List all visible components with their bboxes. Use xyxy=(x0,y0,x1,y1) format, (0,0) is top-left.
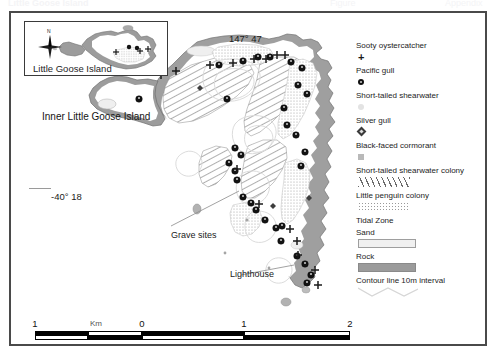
legend-label: Contour line 10m interval xyxy=(356,275,474,286)
cropped-caption-strip: Little Goose Island Figure Appendix xyxy=(0,0,497,9)
scale-seg-bot-2 xyxy=(88,335,142,340)
legend-label: Pacific gull xyxy=(356,65,474,76)
compass-north-label: N xyxy=(47,28,51,34)
legend-label: Sand xyxy=(356,227,474,238)
filled-circle-marker-icon xyxy=(358,79,364,85)
legend-label: Rock xyxy=(356,251,474,262)
legend-item-sand: Sand xyxy=(356,227,474,250)
scale-tick-0: 1 xyxy=(32,318,37,329)
legend-label: Black-faced cormorant xyxy=(356,140,474,151)
caption-fragment-mid: Figure xyxy=(330,0,356,8)
legend-symbol xyxy=(356,101,474,114)
scale-tick-3: 2 xyxy=(347,318,352,329)
figure-frame: N Little Goose Island Inner Little Goose… xyxy=(9,11,487,346)
scale-seg-bot-4 xyxy=(244,335,350,340)
compass-rose: N xyxy=(37,30,63,60)
scale-tick-2: 1 xyxy=(241,318,246,329)
silver-gull-markers xyxy=(197,85,312,209)
land-interior-layer xyxy=(161,40,321,277)
legend-label: Tidal Zone xyxy=(356,215,474,226)
inset-map: N Little Goose Island xyxy=(24,21,168,76)
longitude-label: 147° 47 xyxy=(229,33,262,44)
legend-label: Short-tailed shearwater colony xyxy=(356,165,474,176)
legend-symbol xyxy=(356,176,474,189)
scale-seg-bot-1 xyxy=(35,335,88,340)
legend-symbol xyxy=(356,201,474,214)
diamond-marker-icon xyxy=(357,127,367,137)
scale-bar: 1 Km 0 1 2 xyxy=(32,318,354,344)
scale-bar-segments xyxy=(32,331,354,340)
annotation-lighthouse: Lighthouse xyxy=(230,269,274,279)
scale-unit-label: Km xyxy=(90,319,102,328)
legend-item-sooty-oystercatcher: Sooty oystercatcher + xyxy=(356,40,474,64)
legend-item-penguin-colony: Little penguin colony xyxy=(356,190,474,214)
sand-layer xyxy=(98,46,303,249)
grey-square-marker-icon xyxy=(358,154,364,160)
legend-item-rock: Rock xyxy=(356,251,474,274)
offshore-islets xyxy=(193,204,315,306)
rock-tidal-zone-layer xyxy=(153,34,335,288)
legend-symbol: + xyxy=(356,51,474,64)
inset-island-label: Little Goose Island xyxy=(33,63,112,74)
legend-item-tidal-zone: Tidal Zone xyxy=(356,215,474,226)
latitude-tick xyxy=(29,188,51,189)
legend-item-shearwater-colony: Short-tailed shearwater colony xyxy=(356,165,474,189)
legend-item-short-tailed-shearwater: Short-tailed shearwater xyxy=(356,90,474,114)
figure-root: Little Goose Island Figure Appendix xyxy=(0,0,497,359)
contour-line-icon xyxy=(358,286,418,298)
scale-seg-bot-3 xyxy=(142,335,244,340)
contour-lines-layer xyxy=(176,59,292,283)
rock-swatch-icon xyxy=(358,263,416,272)
stipple-dot-swatch-icon xyxy=(358,202,410,212)
legend-symbol xyxy=(356,151,474,164)
legend-symbol xyxy=(356,238,474,250)
legend-symbol xyxy=(356,262,474,274)
penguin-colony-layer xyxy=(212,44,317,236)
shearwater-colony-layer xyxy=(163,57,308,198)
legend-label: Sooty oystercatcher xyxy=(356,40,474,51)
legend-symbol xyxy=(356,76,474,89)
caption-fragment-right: Appendix xyxy=(445,0,483,8)
caption-fragment-left: Little Goose Island xyxy=(8,0,89,8)
map-legend: Sooty oystercatcher + Pacific gull Short… xyxy=(356,40,474,299)
diagonal-hatch-swatch-icon xyxy=(358,177,410,187)
cross-marker-icon: + xyxy=(358,53,367,62)
latitude-label: -40° 18 xyxy=(51,191,82,202)
bird-marker-layer xyxy=(136,51,322,289)
legend-label: Silver gull xyxy=(356,115,474,126)
legend-symbol xyxy=(356,126,474,139)
annotation-grave-sites: Grave sites xyxy=(171,230,217,240)
sand-swatch-icon xyxy=(358,239,416,248)
legend-label: Little penguin colony xyxy=(356,190,474,201)
legend-label: Short-tailed shearwater xyxy=(356,90,474,101)
sooty-oystercatcher-markers xyxy=(157,51,322,289)
pale-circle-marker-icon xyxy=(358,104,364,110)
legend-item-pacific-gull: Pacific gull xyxy=(356,65,474,89)
pacific-gull-markers xyxy=(136,54,315,287)
compass-star-icon xyxy=(37,30,63,60)
scale-tick-1: 0 xyxy=(139,318,144,329)
legend-item-silver-gull: Silver gull xyxy=(356,115,474,139)
legend-item-contour-line: Contour line 10m interval xyxy=(356,275,474,298)
legend-item-black-faced-cormorant: Black-faced cormorant xyxy=(356,140,474,164)
scale-bar-ticks: 1 Km 0 1 2 xyxy=(32,318,354,330)
inner-little-goose-island-label: Inner Little Goose Island xyxy=(42,111,150,122)
legend-symbol xyxy=(356,286,474,298)
